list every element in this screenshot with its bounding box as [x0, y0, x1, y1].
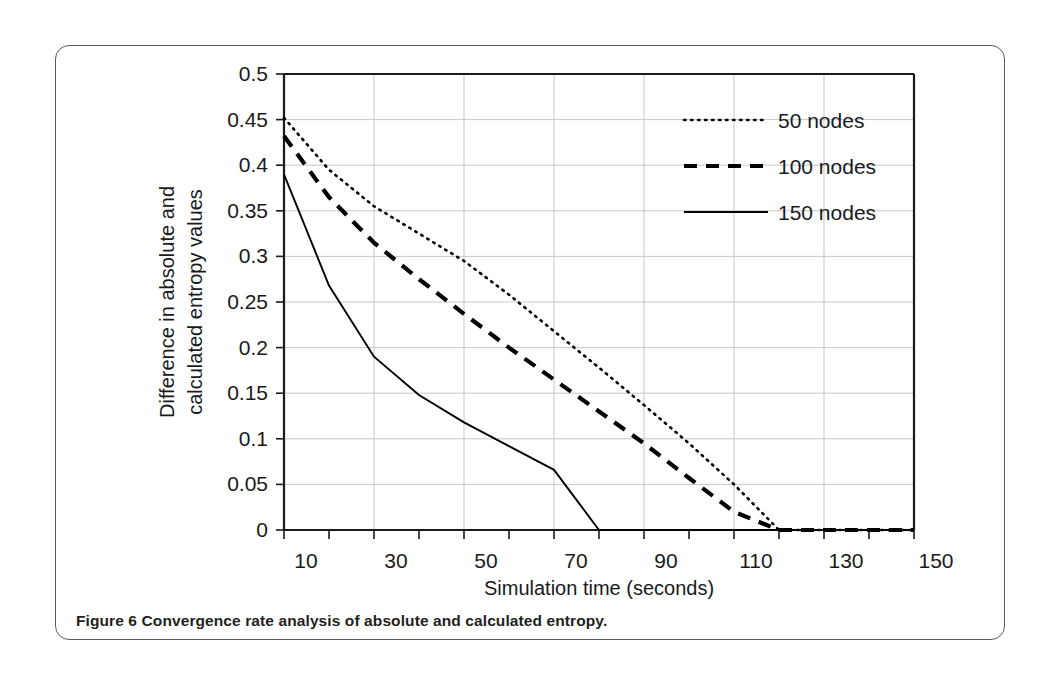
figure-container: 00.050.10.150.20.250.30.350.40.450.5 103…: [55, 45, 1005, 640]
x-tick-label: 130: [828, 549, 863, 572]
y-tick-label: 0.45: [227, 108, 268, 131]
figure-caption-text: Convergence rate analysis of absolute an…: [142, 612, 608, 629]
y-tick-label: 0.35: [227, 199, 268, 222]
y-tick-label: 0.2: [239, 336, 268, 359]
y-tick-label: 0.3: [239, 244, 268, 267]
x-tick-label: 110: [739, 549, 772, 572]
chart-legend: 50 nodes100 nodes150 nodes: [684, 109, 876, 224]
x-tick-label: 50: [474, 549, 497, 572]
y-tick-label: 0.4: [239, 153, 269, 176]
figure-caption-label: Figure 6: [76, 612, 137, 629]
x-axis-tick-labels: 1030507090110130150: [294, 549, 953, 572]
legend-label-50-nodes: 50 nodes: [778, 109, 864, 132]
x-tick-label: 90: [654, 549, 677, 572]
figure-caption: Figure 6 Convergence rate analysis of ab…: [76, 612, 986, 631]
series-line-50-nodes: [284, 118, 914, 530]
y-tick-label: 0.15: [227, 381, 268, 404]
x-tick-label: 70: [564, 549, 587, 572]
legend-label-150-nodes: 150 nodes: [778, 201, 876, 224]
series-line-150-nodes: [284, 174, 914, 530]
y-tick-label: 0.5: [239, 62, 268, 85]
y-tick-label: 0.25: [227, 290, 268, 313]
x-tick-label: 10: [294, 549, 317, 572]
series-line-100-nodes: [284, 136, 914, 530]
entropy-convergence-chart: 00.050.10.150.20.250.30.350.40.450.5 103…: [56, 46, 1006, 606]
y-tick-label: 0.05: [227, 472, 268, 495]
x-tick-label: 150: [918, 549, 953, 572]
y-axis-ticks: [276, 74, 284, 530]
x-tick-label: 30: [384, 549, 407, 572]
legend-label-100-nodes: 100 nodes: [778, 155, 876, 178]
data-series-group: [284, 118, 914, 530]
chart-plot-area: 00.050.10.150.20.250.30.350.40.450.5 103…: [56, 46, 1006, 606]
y-tick-label: 0.1: [239, 427, 268, 450]
y-axis-title-line2: calculated entropy values: [184, 189, 206, 415]
x-axis-ticks: [284, 530, 914, 539]
y-tick-label: 0: [256, 518, 268, 541]
y-axis-title-line1: Difference in absolute and: [156, 186, 178, 418]
y-axis-tick-labels: 00.050.10.150.20.250.30.350.40.450.5: [227, 62, 268, 541]
x-axis-title: Simulation time (seconds): [484, 577, 714, 599]
